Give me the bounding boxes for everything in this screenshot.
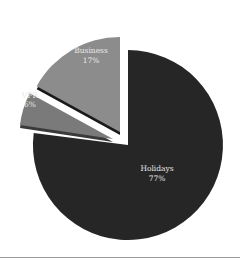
label-business-name: Business bbox=[74, 46, 108, 55]
bottom-rule bbox=[0, 257, 240, 258]
label-vfr-name: VFR bbox=[21, 91, 39, 100]
label-business-pct: 17% bbox=[83, 56, 100, 65]
label-holidays-name: Holidays bbox=[140, 164, 173, 173]
pie-chart: Business 17% VFR 6% Holidays 77% bbox=[0, 0, 240, 263]
label-holidays-pct: 77% bbox=[149, 174, 166, 183]
label-vfr-pct: 6% bbox=[24, 100, 36, 109]
